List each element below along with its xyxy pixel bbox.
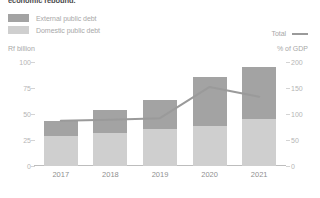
legend-label-total: Total [271,30,286,37]
bar-segment [242,67,276,119]
x-axis-tick-label: 2017 [41,170,81,179]
left-axis-tick-mark [31,114,35,115]
bar-segment [143,100,177,128]
plot-area: 1007550250 200150100500 2017201820192020… [36,62,284,166]
right-axis-tick-mark [286,62,290,63]
x-axis-tick-label: 2020 [190,170,230,179]
right-axis-tick-label: 150 [291,85,303,92]
right-axis-tick-mark [286,114,290,115]
left-axis-tick-label: 50 [23,111,31,118]
left-axis-unit: Rf billion [8,45,35,52]
left-axis-tick-mark [31,166,35,167]
right-axis-tick-label: 50 [291,137,299,144]
right-axis-tick-mark [286,88,290,89]
bar-segment [44,136,78,166]
left-axis-tick-mark [31,62,35,63]
left-axis-tick-mark [31,140,35,141]
x-axis-tick-label: 2021 [239,170,279,179]
bar-segment [193,126,227,166]
right-axis-tick-mark [286,166,290,167]
x-axis-tick-label: 2019 [140,170,180,179]
x-axis-tick-label: 2018 [90,170,130,179]
right-axis-tick-label: 200 [291,59,303,66]
debt-chart: economic rebound. External public debt D… [0,0,320,198]
bar-segment [93,133,127,166]
bar-segment [44,121,78,136]
legend-item-total[interactable]: Total [271,30,308,37]
bar-segment [93,110,127,133]
bar-segment [143,129,177,166]
bar-segment [193,77,227,127]
bar-segment [242,119,276,166]
left-axis-tick-mark [31,88,35,89]
chart-legend: External public debt Domestic public deb… [8,13,100,37]
legend-item-external[interactable]: External public debt [8,13,100,23]
legend-swatch-external [8,14,29,22]
legend-swatch-domestic [8,26,29,34]
legend-line-swatch-total [292,33,308,35]
right-axis-tick-label: 100 [291,111,303,118]
legend-item-domestic[interactable]: Domestic public debt [8,25,100,35]
right-axis-tick-mark [286,140,290,141]
right-axis-unit: % of GDP [277,45,308,52]
left-axis-tick-label: 100 [19,59,31,66]
right-axis-tick-label: 0 [291,163,295,170]
legend-label-domestic: Domestic public debt [36,27,100,34]
legend-label-external: External public debt [36,15,96,22]
left-axis-tick-label: 25 [23,137,31,144]
chart-title: economic rebound. [8,0,238,5]
left-axis-tick-label: 75 [23,85,31,92]
